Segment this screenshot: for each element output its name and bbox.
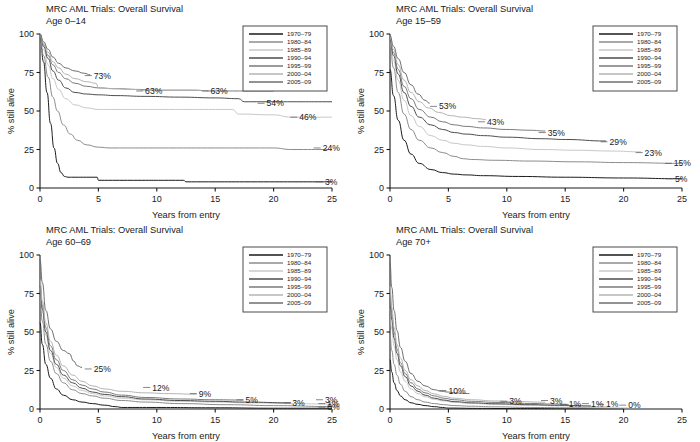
panel-title: MRC AML Trials: Overall Survival — [396, 225, 533, 235]
panel-title: MRC AML Trials: Overall Survival — [46, 4, 183, 14]
survival-percent-annotation: 3% — [292, 398, 305, 408]
survival-percent-annotation: 15% — [674, 158, 692, 168]
y-tick-label: 50 — [374, 327, 384, 337]
y-axis-label: % still alive — [356, 88, 366, 134]
legend-label: 1985–89 — [637, 267, 662, 274]
legend-label: 2000–04 — [637, 70, 662, 77]
legend-label: 2000–04 — [637, 291, 662, 298]
panel-subtitle: Age 70+ — [396, 237, 431, 247]
x-tick-label: 25 — [677, 194, 687, 204]
legend: 1970–791980–841985–891990–941995–992000–… — [593, 26, 677, 91]
chart-panel-age-70-plus: MRC AML Trials: Overall SurvivalAge 70+0… — [350, 221, 700, 442]
x-axis-label: Years from entry — [502, 431, 570, 441]
x-axis-label: Years from entry — [502, 210, 570, 220]
legend-label: 1995–99 — [287, 283, 312, 290]
y-tick-label: 25 — [24, 145, 34, 155]
survival-percent-annotation: 35% — [548, 128, 566, 138]
survival-percent-annotation: 54% — [267, 98, 285, 108]
x-tick-label: 5 — [446, 415, 451, 425]
survival-percent-annotation: 63% — [145, 86, 163, 96]
chart-panel-age-60-69: MRC AML Trials: Overall SurvivalAge 60–6… — [0, 221, 350, 442]
x-tick-label: 25 — [677, 415, 687, 425]
y-tick-label: 75 — [24, 289, 34, 299]
survival-percent-annotation: 53% — [439, 101, 457, 111]
legend-label: 2000–04 — [287, 291, 312, 298]
y-tick-label: 100 — [369, 29, 384, 39]
x-tick-label: 10 — [502, 194, 512, 204]
x-tick-label: 25 — [327, 194, 337, 204]
x-tick-label: 0 — [387, 415, 392, 425]
survival-percent-annotation: 1% — [591, 399, 604, 409]
survival-curve-plot: MRC AML Trials: Overall SurvivalAge 0–14… — [0, 0, 350, 221]
x-tick-label: 20 — [269, 415, 279, 425]
x-tick-label: 0 — [37, 194, 42, 204]
legend-label: 1970–79 — [287, 251, 312, 258]
legend-label: 1990–94 — [287, 275, 312, 282]
survival-curve-plot: MRC AML Trials: Overall SurvivalAge 70+0… — [350, 221, 700, 442]
y-tick-label: 25 — [374, 145, 384, 155]
survival-percent-annotation: 0% — [628, 400, 641, 410]
x-tick-label: 0 — [387, 194, 392, 204]
y-tick-label: 50 — [24, 327, 34, 337]
y-tick-label: 75 — [374, 289, 384, 299]
survival-percent-annotation: 63% — [211, 86, 229, 96]
survival-percent-annotation: 25% — [94, 364, 112, 374]
x-axis-label: Years from entry — [152, 431, 220, 441]
legend-label: 1995–99 — [637, 62, 662, 69]
survival-percent-annotation: 1% — [606, 399, 619, 409]
legend-label: 1985–89 — [287, 267, 312, 274]
survival-curve — [40, 323, 332, 408]
survival-curve — [40, 280, 197, 395]
x-tick-label: 10 — [152, 194, 162, 204]
legend-label: 2005–09 — [637, 299, 662, 306]
survival-percent-annotation: 10% — [448, 386, 466, 396]
legend-label: 1990–94 — [637, 54, 662, 61]
survival-percent-annotation: 43% — [487, 117, 505, 127]
survival-percent-annotation: 46% — [299, 112, 317, 122]
panel-subtitle: Age 60–69 — [46, 237, 91, 247]
legend-label: 2000–04 — [287, 70, 312, 77]
x-tick-label: 15 — [560, 415, 570, 425]
survival-percent-annotation: 5% — [675, 174, 688, 184]
x-tick-label: 20 — [619, 415, 629, 425]
y-tick-label: 25 — [24, 366, 34, 376]
legend-label: 1990–94 — [637, 275, 662, 282]
survival-curve — [390, 37, 486, 119]
y-axis-label: % still alive — [356, 309, 366, 355]
legend-label: 2005–09 — [637, 78, 662, 85]
panel-title: MRC AML Trials: Overall Survival — [396, 4, 533, 14]
legend-label: 1980–84 — [637, 259, 662, 266]
survival-percent-annotation: 73% — [94, 71, 112, 81]
x-tick-label: 5 — [446, 194, 451, 204]
x-tick-label: 15 — [560, 194, 570, 204]
y-tick-label: 0 — [29, 404, 34, 414]
y-tick-label: 0 — [379, 404, 384, 414]
x-axis-label: Years from entry — [152, 210, 220, 220]
legend-label: 1990–94 — [287, 54, 312, 61]
survival-percent-annotation: 3% — [325, 177, 338, 187]
legend: 1970–791980–841985–891990–941995–992000–… — [593, 247, 677, 312]
x-tick-label: 20 — [619, 194, 629, 204]
x-tick-label: 5 — [96, 194, 101, 204]
survival-percent-annotation: 1% — [569, 399, 582, 409]
x-tick-label: 5 — [96, 415, 101, 425]
chart-panel-age-0-14: MRC AML Trials: Overall SurvivalAge 0–14… — [0, 0, 350, 221]
survival-percent-annotation: 3% — [509, 396, 522, 406]
x-tick-label: 0 — [37, 415, 42, 425]
survival-curve-plot: MRC AML Trials: Overall SurvivalAge 60–6… — [0, 221, 350, 442]
y-tick-label: 0 — [379, 183, 384, 193]
y-tick-label: 100 — [369, 250, 384, 260]
y-tick-label: 100 — [19, 250, 34, 260]
legend: 1970–791980–841985–891990–941995–992000–… — [243, 26, 327, 91]
legend-label: 1980–84 — [287, 259, 312, 266]
survival-percent-annotation: 0% — [327, 402, 340, 412]
legend-label: 1995–99 — [637, 283, 662, 290]
figure-panel-grid: MRC AML Trials: Overall SurvivalAge 0–14… — [0, 0, 700, 442]
y-tick-label: 75 — [374, 68, 384, 78]
y-axis-label: % still alive — [6, 88, 16, 134]
legend-label: 2005–09 — [287, 78, 312, 85]
y-tick-label: 50 — [374, 106, 384, 116]
panel-subtitle: Age 0–14 — [46, 16, 86, 26]
survival-percent-annotation: 5% — [246, 395, 259, 405]
survival-percent-annotation: 24% — [323, 143, 341, 153]
